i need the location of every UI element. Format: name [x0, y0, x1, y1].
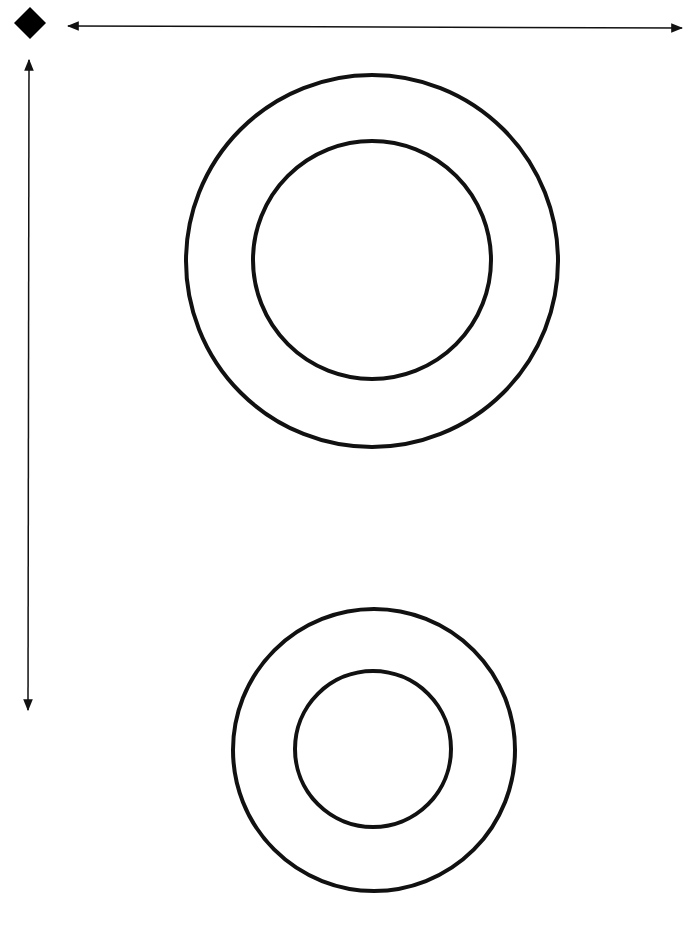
- diagram-canvas: [0, 0, 693, 932]
- horizontal-dimension-arrow: [68, 26, 682, 28]
- bottom-outer-circle: [233, 609, 515, 891]
- top-ring-pair: [186, 75, 558, 447]
- top-outer-circle: [186, 75, 558, 447]
- diamond-marker-icon: [14, 7, 46, 39]
- bottom-inner-circle: [295, 671, 451, 827]
- vertical-dimension-arrow: [28, 60, 29, 710]
- bottom-ring-pair: [233, 609, 515, 891]
- top-inner-circle: [253, 141, 491, 379]
